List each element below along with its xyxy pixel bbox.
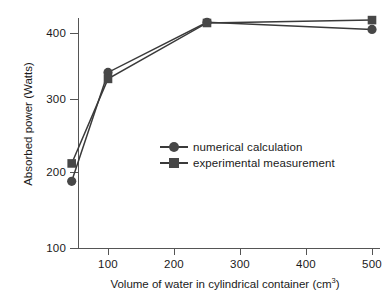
data-point	[104, 75, 113, 84]
legend-item-experimental-measurement: experimental measurement	[160, 155, 335, 171]
legend-label-experimental-measurement: experimental measurement	[193, 157, 335, 169]
legend-item-numerical-calculation: numerical calculation	[160, 139, 335, 155]
legend-label-numerical-calculation: numerical calculation	[193, 141, 303, 153]
chart-container: 400 300 200 100 100 200 300 400 500 Abso…	[0, 0, 391, 300]
data-point	[367, 25, 376, 34]
data-point	[67, 159, 76, 168]
legend-circle-marker-icon	[160, 140, 188, 154]
data-point	[67, 177, 76, 186]
data-point	[368, 16, 377, 25]
data-point	[203, 19, 212, 28]
legend: numerical calculation experimental measu…	[160, 139, 335, 171]
legend-square-marker-icon	[160, 156, 188, 170]
